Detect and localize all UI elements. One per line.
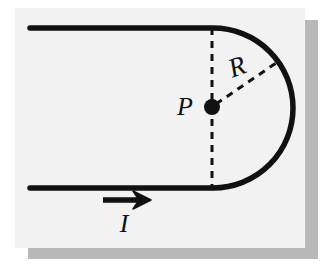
center-point-dot bbox=[204, 99, 220, 115]
figure-root: P R I bbox=[0, 0, 333, 266]
panel-shadow-right bbox=[305, 20, 318, 258]
current-i-label: I bbox=[119, 209, 130, 238]
point-p-label: P bbox=[176, 92, 193, 121]
hairpin-wire-diagram: P R I bbox=[0, 0, 333, 266]
panel-shadow-bottom bbox=[28, 248, 318, 259]
